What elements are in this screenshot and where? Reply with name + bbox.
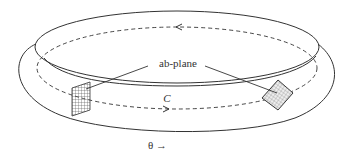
ab-plane-label: ab-plane xyxy=(159,57,197,69)
torus-ring xyxy=(19,11,335,132)
contour-c-label: C xyxy=(163,92,171,104)
left-ab-plane-grid xyxy=(72,82,90,116)
torus-diagram: ab-plane C θ → xyxy=(0,0,348,159)
right-ab-plane-grid xyxy=(262,80,293,110)
theta-direction-label: θ → xyxy=(148,139,167,151)
